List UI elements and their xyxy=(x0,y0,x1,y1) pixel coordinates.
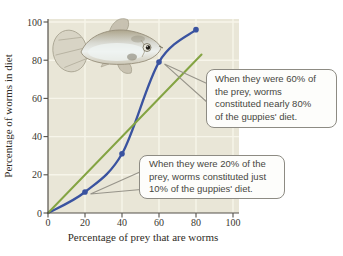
y-tick-label: 100 xyxy=(27,17,42,28)
callout-20-line: When they were 20% of the xyxy=(149,158,279,171)
diet-preference-chart: 020406080100020406080100 xyxy=(0,0,343,256)
callout-20-line: prey, worms constituted just xyxy=(149,171,279,184)
callout-20-line: 10% of the guppies' diet. xyxy=(149,183,279,196)
guppy-prey-preference-figure: 020406080100020406080100 xyxy=(0,0,343,256)
callout-60-line: of the guppies' diet. xyxy=(215,111,331,124)
callout-60-line: the prey, worms xyxy=(215,86,331,99)
shoulder-patch xyxy=(131,36,145,43)
y-axis-title: Percentage of worms in diet xyxy=(2,54,14,177)
x-tick-label: 40 xyxy=(117,217,127,228)
callout-60-line: constituted nearly 80% xyxy=(215,98,331,111)
callout-60-line: When they were 60% of xyxy=(215,73,331,86)
y-tick-label: 60 xyxy=(32,93,42,104)
flank-spot xyxy=(127,54,137,61)
fish-pupil xyxy=(146,45,150,49)
x-tick-label: 100 xyxy=(226,217,241,228)
x-axis-title: Percentage of prey that are worms xyxy=(68,231,219,243)
x-tick-label: 0 xyxy=(46,217,51,228)
x-tick-label: 60 xyxy=(154,217,164,228)
callout-60-percent: When they were 60% of the prey, worms co… xyxy=(206,69,337,128)
observed-worms-in-diet-curve-marker xyxy=(82,189,88,195)
eye-glint xyxy=(147,46,148,47)
observed-worms-in-diet-curve-marker xyxy=(193,27,199,33)
x-tick-label: 20 xyxy=(80,217,90,228)
x-tick-label: 80 xyxy=(191,217,201,228)
y-tick-label: 20 xyxy=(32,169,42,180)
y-tick-label: 0 xyxy=(37,208,42,219)
callout-20-percent: When they were 20% of the prey, worms co… xyxy=(139,155,285,199)
belly-sheen xyxy=(88,43,146,61)
observed-worms-in-diet-curve-marker xyxy=(156,59,162,65)
y-tick-label: 80 xyxy=(32,55,42,66)
observed-worms-in-diet-curve-marker xyxy=(119,151,125,157)
y-tick-label: 40 xyxy=(32,131,42,142)
